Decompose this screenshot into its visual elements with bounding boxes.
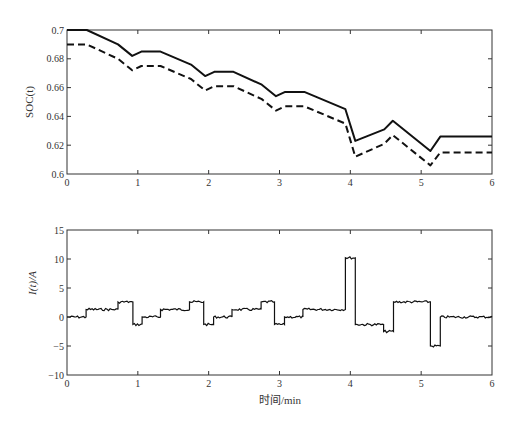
- soc-line-solid: [67, 30, 492, 151]
- current-plot-ticks: 0123456−10−5051015: [48, 225, 494, 390]
- current-line: [67, 257, 492, 347]
- soc-plot-series: [67, 30, 492, 165]
- x-tick-label: 5: [419, 378, 424, 389]
- y-tick-label: 0: [59, 312, 64, 323]
- soc-plot: 01234560.60.620.640.660.680.7 SOC(t): [23, 25, 495, 189]
- x-tick-label: 4: [348, 177, 353, 188]
- x-tick-label: 0: [65, 177, 70, 188]
- soc-plot-frame: [67, 30, 492, 174]
- y-tick-label: 0.68: [47, 53, 65, 64]
- y-tick-label: 0.6: [52, 169, 65, 180]
- y-tick-label: 5: [59, 283, 64, 294]
- x-tick-label: 4: [348, 378, 353, 389]
- x-tick-label: 6: [490, 378, 495, 389]
- soc-line-dashed: [67, 44, 492, 165]
- y-tick-label: 10: [54, 254, 64, 265]
- x-tick-label: 5: [419, 177, 424, 188]
- y-tick-label: 0.7: [52, 25, 65, 36]
- y-tick-label: 0.66: [47, 82, 65, 93]
- x-tick-label: 0: [65, 378, 70, 389]
- x-tick-label: 1: [135, 177, 140, 188]
- y-tick-label: −5: [53, 341, 64, 352]
- x-tick-label: 2: [206, 378, 211, 389]
- y-tick-label: 0.64: [47, 111, 65, 122]
- soc-y-axis-label: SOC(t): [23, 86, 36, 118]
- x-tick-label: 6: [490, 177, 495, 188]
- current-plot: 0123456−10−5051015 I(t)/A 时间/min: [26, 225, 495, 407]
- current-y-axis-label: I(t)/A: [26, 271, 39, 296]
- figure: 01234560.60.620.640.660.680.7 SOC(t) 012…: [0, 0, 517, 428]
- y-tick-label: 15: [54, 225, 64, 236]
- x-tick-label: 3: [277, 378, 282, 389]
- time-x-axis-label: 时间/min: [259, 394, 302, 406]
- x-tick-label: 3: [277, 177, 282, 188]
- y-tick-label: −10: [48, 370, 64, 381]
- x-tick-label: 1: [135, 378, 140, 389]
- current-plot-series: [67, 257, 492, 347]
- x-tick-label: 2: [206, 177, 211, 188]
- y-tick-label: 0.62: [47, 140, 65, 151]
